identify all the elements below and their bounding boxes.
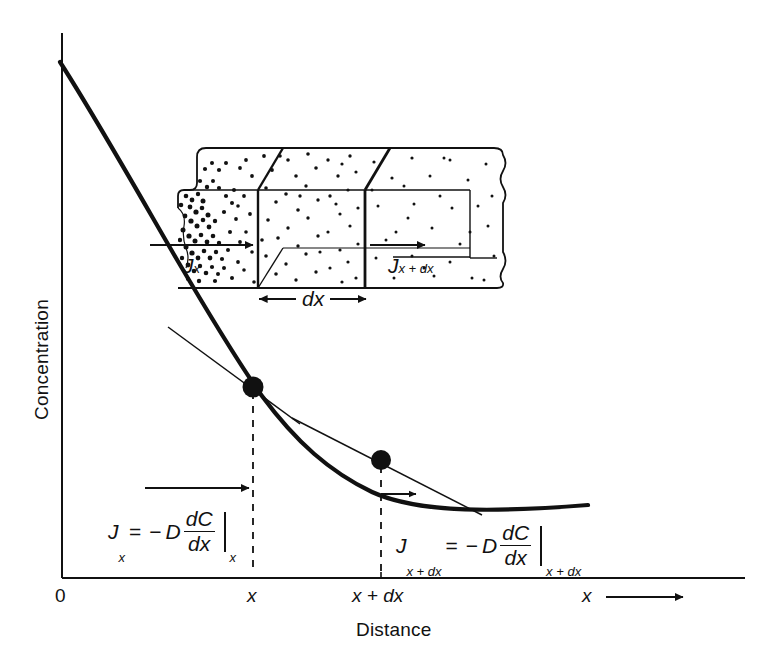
flux-xdx-equals: = bbox=[446, 535, 458, 556]
flux-xdx-derivative-numerator: dC bbox=[500, 522, 531, 546]
flux-xdx-evaluation-subscript: x + dx bbox=[546, 565, 581, 578]
inset-flux-in-symbol: J bbox=[183, 254, 194, 277]
flux-xdx-minus-sign: − bbox=[466, 535, 478, 556]
flux-xdx-diffusion-coefficient: D bbox=[482, 535, 497, 556]
inset-stipple-particles bbox=[178, 152, 496, 284]
inset-thickness-label: dx bbox=[302, 288, 324, 309]
flux-xdx-derivative-denominator: dx bbox=[503, 546, 529, 569]
marker-point-at-x bbox=[243, 377, 264, 398]
inset-flux-out-symbol: J bbox=[388, 254, 399, 277]
inset-flux-in-subscript: x bbox=[194, 261, 201, 276]
concentration-curve bbox=[60, 62, 588, 510]
y-axis-title: Concentration bbox=[32, 299, 51, 420]
figure-canvas bbox=[0, 0, 769, 656]
x-axis-title: Distance bbox=[356, 620, 432, 639]
flux-x-symbol: J bbox=[108, 521, 119, 542]
flux-x-evaluation-bar bbox=[224, 512, 226, 552]
marker-point-at-x-plus-dx bbox=[371, 450, 391, 470]
x-tick-label-x-direction: x bbox=[582, 586, 592, 605]
flux-x-derivative-denominator: dx bbox=[186, 532, 212, 555]
axis-origin-label: 0 bbox=[55, 586, 66, 605]
flux-xdx-evaluation-bar bbox=[540, 526, 542, 566]
diffusion-figure: Concentration Distance 0 x x + dx x Jx =… bbox=[0, 0, 769, 656]
flux-x-subscript: x bbox=[119, 551, 126, 564]
inset-flux-out-subscript: x + dx bbox=[399, 261, 434, 276]
x-tick-label-x: x bbox=[247, 586, 257, 605]
equation-flux-at-x: Jx = − D dC dx x bbox=[108, 508, 236, 555]
stipple-medium bbox=[236, 152, 359, 284]
flux-xdx-subscript: x + dx bbox=[407, 565, 442, 578]
axis-lines bbox=[62, 33, 745, 578]
flux-x-equals: = bbox=[129, 521, 141, 542]
inset-slab-outline bbox=[178, 148, 506, 288]
flux-x-minus-sign: − bbox=[149, 521, 161, 542]
x-tick-label-x-plus-dx: x + dx bbox=[352, 586, 403, 605]
flux-x-derivative-numerator: dC bbox=[184, 508, 215, 532]
flux-xdx-symbol: J bbox=[396, 535, 407, 556]
inset-flux-in-label: Jx bbox=[183, 255, 200, 276]
flux-xdx-derivative-fraction: dC dx bbox=[500, 522, 531, 569]
flux-x-diffusion-coefficient: D bbox=[166, 521, 181, 542]
flux-x-derivative-fraction: dC dx bbox=[184, 508, 215, 555]
flux-x-evaluation-subscript: x bbox=[230, 551, 237, 564]
equation-flux-at-x-plus-dx: Jx + dx = − D dC dx x + dx bbox=[396, 522, 581, 569]
inset-flux-out-label: Jx + dx bbox=[388, 255, 434, 276]
tangent-line-at-x bbox=[168, 327, 300, 424]
